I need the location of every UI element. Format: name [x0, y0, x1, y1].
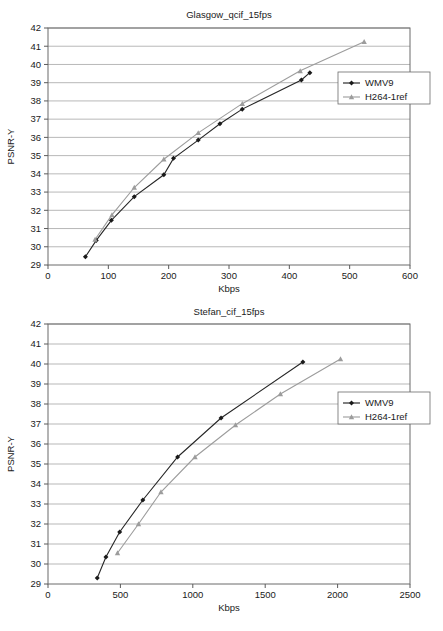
y-tick-label: 35 [30, 458, 41, 469]
y-tick-label: 36 [30, 132, 41, 143]
x-tick-label: 2000 [327, 589, 348, 600]
y-axis-title-glasgow: PSNR-Y [5, 128, 16, 165]
y-tick-label: 35 [30, 150, 41, 161]
x-tick-label: 600 [402, 270, 418, 281]
y-tick-label: 41 [30, 338, 41, 349]
y-tick-label: 31 [30, 223, 41, 234]
y-axis-title-stefan: PSNR-Y [5, 435, 16, 472]
y-tick-label: 29 [30, 259, 41, 270]
data-point-marker [103, 555, 108, 560]
x-tick-label: 500 [112, 589, 128, 600]
legend-glasgow: WMV9H264-1ref [338, 72, 430, 104]
y-tick-label: 42 [30, 318, 41, 329]
y-axis-glasgow: 2930313233343536373839404142 [30, 22, 48, 270]
y-tick-label: 33 [30, 186, 41, 197]
y-tick-label: 38 [30, 95, 41, 106]
legend-label: H264-1ref [365, 91, 408, 102]
y-tick-label: 37 [30, 113, 41, 124]
figure-page: Glasgow_qcif_15fps2930313233343536373839… [0, 0, 443, 631]
y-axis-stefan: 2930313233343536373839404142 [30, 318, 48, 589]
data-point-marker [297, 68, 302, 73]
x-tick-label: 200 [161, 270, 177, 281]
chart-canvas-glasgow: Glasgow_qcif_15fps2930313233343536373839… [0, 0, 443, 300]
y-tick-label: 42 [30, 22, 41, 33]
y-tick-label: 33 [30, 498, 41, 509]
data-point-marker [95, 576, 100, 581]
chart-title-glasgow: Glasgow_qcif_15fps [186, 9, 272, 20]
x-axis-stefan: 05001000150020002500 [45, 584, 420, 600]
x-axis-title-glasgow: Kbps [218, 283, 240, 294]
x-tick-label: 1000 [182, 589, 203, 600]
gridlines-glasgow [48, 28, 410, 247]
series-h264-1ref [115, 356, 343, 555]
series-wmv9 [95, 360, 306, 581]
legend-stefan: WMV9H264-1ref [338, 392, 430, 424]
y-tick-label: 39 [30, 378, 41, 389]
series-line [85, 73, 309, 257]
y-tick-label: 32 [30, 205, 41, 216]
x-axis-glasgow: 0100200300400500600 [45, 265, 418, 281]
legend-label: WMV9 [365, 77, 394, 88]
data-point-marker [196, 130, 201, 135]
chart-title-stefan: Stefan_cif_15fps [194, 306, 265, 317]
series-line [97, 362, 303, 578]
x-tick-label: 0 [45, 270, 50, 281]
x-tick-label: 400 [281, 270, 297, 281]
chart-stefan: Stefan_cif_15fps293031323334353637383940… [0, 300, 443, 631]
y-tick-label: 34 [30, 168, 41, 179]
data-point-marker [361, 39, 366, 44]
chart-glasgow: Glasgow_qcif_15fps2930313233343536373839… [0, 0, 443, 300]
x-tick-label: 0 [45, 589, 50, 600]
gridlines-stefan [48, 324, 410, 564]
legend-label: H264-1ref [365, 411, 408, 422]
y-tick-label: 37 [30, 418, 41, 429]
x-tick-label: 1500 [255, 589, 276, 600]
series-line [95, 42, 364, 240]
x-tick-label: 2500 [399, 589, 420, 600]
x-tick-label: 500 [342, 270, 358, 281]
y-tick-label: 30 [30, 558, 41, 569]
series-h264-1ref [92, 39, 366, 242]
chart-canvas-stefan: Stefan_cif_15fps293031323334353637383940… [0, 300, 443, 631]
plot-area-border-stefan [48, 324, 410, 584]
y-tick-label: 36 [30, 438, 41, 449]
y-tick-label: 31 [30, 538, 41, 549]
data-point-marker [240, 101, 245, 106]
x-tick-label: 300 [221, 270, 237, 281]
y-tick-label: 30 [30, 241, 41, 252]
x-axis-title-stefan: Kbps [218, 602, 240, 613]
y-tick-label: 29 [30, 578, 41, 589]
y-tick-label: 40 [30, 59, 41, 70]
y-tick-label: 38 [30, 398, 41, 409]
series-wmv9 [83, 70, 312, 259]
legend-label: WMV9 [365, 397, 394, 408]
data-point-marker [338, 356, 343, 361]
y-tick-label: 32 [30, 518, 41, 529]
y-tick-label: 34 [30, 478, 41, 489]
x-tick-label: 100 [100, 270, 116, 281]
data-point-marker [278, 391, 283, 396]
y-tick-label: 39 [30, 77, 41, 88]
y-tick-label: 40 [30, 358, 41, 369]
y-tick-label: 41 [30, 41, 41, 52]
